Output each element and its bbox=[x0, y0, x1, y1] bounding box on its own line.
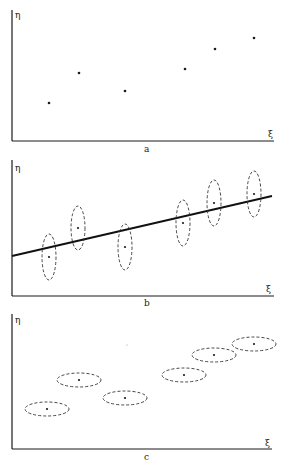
data-point bbox=[213, 202, 215, 204]
data-point bbox=[78, 379, 80, 381]
data-point bbox=[253, 37, 256, 40]
data-point bbox=[124, 90, 127, 93]
data-point bbox=[48, 256, 50, 258]
data-point bbox=[78, 72, 81, 75]
data-point bbox=[124, 246, 126, 248]
x-axis-label: ξ bbox=[268, 129, 273, 139]
data-point bbox=[184, 68, 187, 71]
panel-caption: b bbox=[144, 298, 150, 308]
data-points bbox=[48, 37, 256, 105]
data-point bbox=[182, 222, 184, 224]
data-point bbox=[253, 343, 255, 345]
figure: η ξ a η ξ b bbox=[0, 0, 284, 464]
panel-b: η ξ b bbox=[12, 160, 274, 308]
data-point bbox=[183, 374, 185, 376]
panel-c: η ξ c bbox=[12, 314, 276, 462]
fit-line bbox=[12, 196, 272, 256]
data-point bbox=[214, 48, 217, 51]
data-point bbox=[77, 227, 79, 229]
data-point bbox=[213, 354, 215, 356]
panel-caption: c bbox=[144, 452, 149, 462]
x-axis-label: ξ bbox=[266, 284, 271, 294]
data-point bbox=[124, 397, 126, 399]
data-point bbox=[253, 193, 255, 195]
error-ellipses bbox=[42, 171, 261, 280]
stray-speck bbox=[127, 345, 128, 346]
y-axis-label: η bbox=[15, 163, 20, 173]
data-point bbox=[46, 408, 48, 410]
data-point bbox=[48, 102, 51, 105]
y-axis-label: η bbox=[15, 10, 20, 20]
panel-caption: a bbox=[144, 144, 150, 154]
data-points bbox=[46, 343, 255, 410]
error-ellipses bbox=[25, 337, 276, 416]
y-axis-label: η bbox=[15, 315, 20, 325]
panel-a: η ξ a bbox=[12, 10, 274, 154]
x-axis-label: ξ bbox=[265, 438, 270, 448]
data-points bbox=[48, 193, 255, 258]
